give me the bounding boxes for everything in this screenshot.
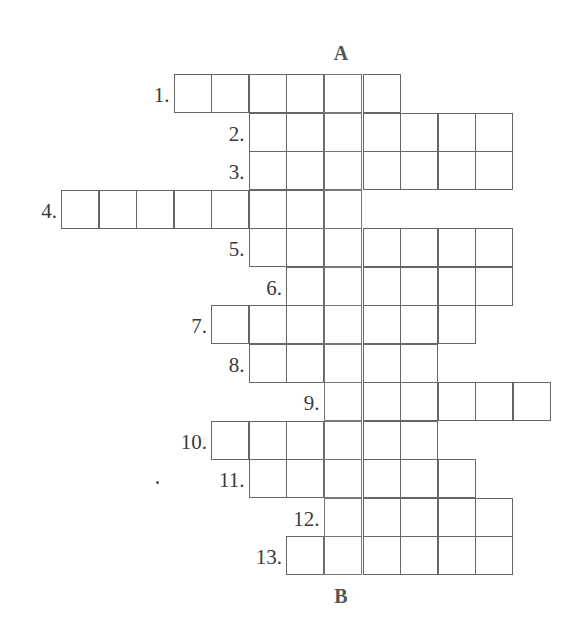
key-column-cell[interactable] [324,113,362,152]
answer-cell[interactable] [400,498,438,537]
clue-number: 5. [205,238,245,260]
answer-cell[interactable] [286,421,324,460]
key-column-cell[interactable] [324,190,362,229]
answer-cell[interactable] [249,459,287,498]
answer-cell[interactable] [400,459,438,498]
answer-cell[interactable] [286,74,324,113]
crossword-grid: A B 1.2.3.4.5.6.7.8.9.10.11.12.13. [0,0,584,631]
answer-cell[interactable] [99,190,137,229]
answer-cell[interactable] [286,344,324,383]
answer-cell[interactable] [363,421,401,460]
clue-number: 6. [242,277,282,299]
column-label-bottom: B [326,585,356,608]
key-column-cell[interactable] [324,498,362,537]
answer-cell[interactable] [286,305,324,344]
answer-cell[interactable] [363,344,401,383]
key-column-cell[interactable] [324,74,362,113]
answer-cell[interactable] [286,228,324,267]
answer-cell[interactable] [286,151,324,190]
answer-cell[interactable] [174,190,212,229]
answer-cell[interactable] [475,113,513,152]
answer-cell[interactable] [400,228,438,267]
clue-number: 3. [205,161,245,183]
key-column-cell[interactable] [324,536,362,575]
key-column-cell[interactable] [324,421,362,460]
answer-cell[interactable] [513,382,551,421]
answer-cell[interactable] [400,536,438,575]
answer-cell[interactable] [400,382,438,421]
answer-cell[interactable] [475,536,513,575]
answer-cell[interactable] [211,421,249,460]
clue-number: 4. [17,200,57,222]
answer-cell[interactable] [174,74,212,113]
clue-number: 10. [167,431,207,453]
answer-cell[interactable] [286,190,324,229]
answer-cell[interactable] [363,113,401,152]
answer-cell[interactable] [249,190,287,229]
key-column-cell[interactable] [324,267,362,306]
answer-cell[interactable] [363,536,401,575]
key-column-cell[interactable] [324,228,362,267]
key-column-cell[interactable] [324,382,362,421]
answer-cell[interactable] [249,421,287,460]
answer-cell[interactable] [211,74,249,113]
stray-dot [156,481,159,484]
answer-cell[interactable] [475,382,513,421]
clue-number: 13. [242,546,282,568]
clue-number: 12. [280,508,320,530]
clue-number: 1. [130,84,170,106]
answer-cell[interactable] [249,74,287,113]
answer-cell[interactable] [438,382,476,421]
clue-number: 9. [280,392,320,414]
column-label-top: A [326,42,356,65]
answer-cell[interactable] [400,151,438,190]
answer-cell[interactable] [286,536,324,575]
answer-cell[interactable] [400,267,438,306]
clue-number: 11. [205,469,245,491]
clue-number: 8. [205,354,245,376]
answer-cell[interactable] [400,305,438,344]
answer-cell[interactable] [249,151,287,190]
answer-cell[interactable] [211,190,249,229]
answer-cell[interactable] [249,305,287,344]
answer-cell[interactable] [363,382,401,421]
answer-cell[interactable] [136,190,174,229]
key-column-cell[interactable] [324,305,362,344]
answer-cell[interactable] [438,228,476,267]
answer-cell[interactable] [249,228,287,267]
answer-cell[interactable] [475,498,513,537]
answer-cell[interactable] [475,151,513,190]
answer-cell[interactable] [475,228,513,267]
key-column-cell[interactable] [324,344,362,383]
answer-cell[interactable] [363,74,401,113]
key-column-cell[interactable] [324,459,362,498]
clue-number: 7. [167,315,207,337]
answer-cell[interactable] [363,305,401,344]
answer-cell[interactable] [400,421,438,460]
answer-cell[interactable] [249,344,287,383]
answer-cell[interactable] [438,459,476,498]
key-column-cell[interactable] [324,151,362,190]
answer-cell[interactable] [438,113,476,152]
answer-cell[interactable] [249,113,287,152]
answer-cell[interactable] [61,190,99,229]
answer-cell[interactable] [438,498,476,537]
answer-cell[interactable] [438,305,476,344]
answer-cell[interactable] [286,113,324,152]
answer-cell[interactable] [363,498,401,537]
answer-cell[interactable] [211,305,249,344]
answer-cell[interactable] [438,151,476,190]
answer-cell[interactable] [286,459,324,498]
answer-cell[interactable] [363,228,401,267]
clue-number: 2. [205,123,245,145]
answer-cell[interactable] [400,113,438,152]
answer-cell[interactable] [400,344,438,383]
answer-cell[interactable] [363,151,401,190]
answer-cell[interactable] [438,267,476,306]
answer-cell[interactable] [475,267,513,306]
answer-cell[interactable] [286,267,324,306]
answer-cell[interactable] [438,536,476,575]
answer-cell[interactable] [363,459,401,498]
answer-cell[interactable] [363,267,401,306]
